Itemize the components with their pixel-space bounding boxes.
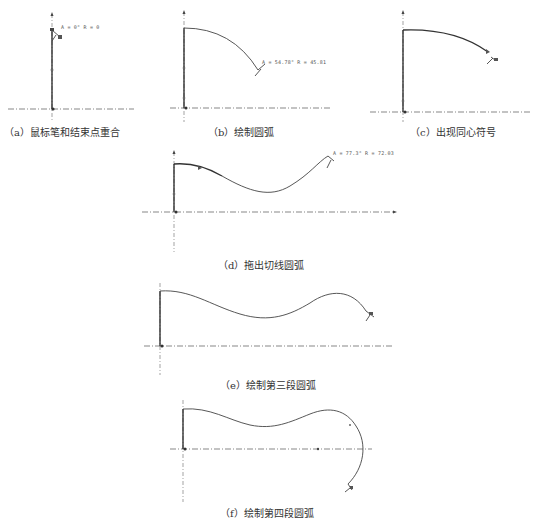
caption-c: （c）出现同心符号 bbox=[410, 124, 496, 139]
origin-marker-icon bbox=[404, 111, 407, 114]
caption-b: （b）绘制圆弧 bbox=[208, 124, 274, 139]
axis-arrow-icon bbox=[402, 10, 405, 14]
vertex-marker-icon bbox=[402, 100, 405, 103]
origin-marker-icon bbox=[185, 107, 188, 110]
panel-c: （c）出现同心符号 bbox=[370, 0, 542, 140]
pencil-cursor-icon bbox=[52, 30, 62, 41]
pencil-cursor-icon bbox=[255, 64, 265, 76]
origin-marker-icon bbox=[161, 345, 164, 348]
vertex-marker-icon bbox=[183, 97, 186, 100]
panel-b: A = 54.78° R = 45.81 （b）绘制圆弧 bbox=[170, 0, 370, 140]
axis-arrow-icon bbox=[183, 10, 186, 14]
origin-marker-icon bbox=[175, 211, 178, 214]
panel-e: （e）绘制第三段圆弧 bbox=[130, 275, 430, 395]
endpoint-marker-icon bbox=[349, 424, 351, 426]
pencil-cursor-icon bbox=[487, 57, 498, 64]
sketch-a bbox=[0, 0, 140, 140]
axis-arrow-icon bbox=[173, 150, 176, 154]
arc-center-marker-icon bbox=[317, 448, 319, 450]
concentric-symbol-icon bbox=[486, 49, 490, 54]
tangent-arc-segment bbox=[222, 156, 328, 192]
dimension-readout-d: A = 77.3° R = 72.03 bbox=[333, 150, 394, 156]
panel-f: （f）绘制第四段圆弧 bbox=[150, 392, 430, 525]
dimension-readout-b: A = 54.78° R = 45.81 bbox=[262, 59, 326, 65]
sketch-b bbox=[170, 0, 370, 140]
midpoint-marker-icon bbox=[51, 69, 54, 72]
dimension-readout-a: A = 0° R = 0 bbox=[61, 24, 100, 30]
caption-e: （e）绘制第三段圆弧 bbox=[220, 377, 316, 392]
origin-marker-icon bbox=[184, 448, 187, 451]
fourth-arc-segment bbox=[348, 426, 363, 484]
caption-f: （f）绘制第四段圆弧 bbox=[220, 505, 314, 520]
arc-segment bbox=[403, 30, 488, 52]
sketch-d bbox=[130, 140, 430, 275]
arc-segment bbox=[184, 28, 258, 70]
panel-a: A = 0° R = 0 （a）鼠标笔和结束点重合 bbox=[0, 0, 140, 140]
pencil-cursor-icon bbox=[345, 484, 353, 492]
caption-a: （a）鼠标笔和结束点重合 bbox=[4, 124, 120, 139]
origin-marker-icon bbox=[51, 107, 54, 110]
pencil-cursor-icon bbox=[366, 311, 374, 321]
axis-arrow-icon bbox=[51, 12, 54, 16]
spline-arc-chain bbox=[160, 291, 366, 318]
spline-arc-chain bbox=[183, 409, 356, 427]
caption-d: （d）拖出切线圆弧 bbox=[218, 257, 304, 272]
vertex-marker-icon bbox=[173, 193, 176, 196]
midpoint-marker-icon bbox=[183, 67, 186, 70]
axis-arrow-icon bbox=[393, 211, 397, 214]
pencil-cursor-icon bbox=[327, 156, 334, 168]
panel-d: A = 77.3° R = 72.03 （d）拖出切线圆弧 bbox=[130, 140, 430, 275]
sketch-c bbox=[370, 0, 542, 140]
